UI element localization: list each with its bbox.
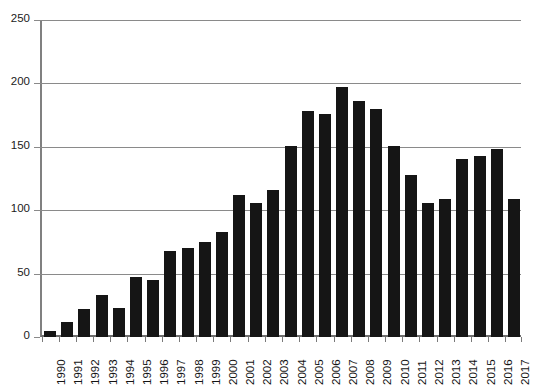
bar [61, 322, 73, 337]
bar [216, 232, 228, 337]
x-axis-tick-label: 2012 [433, 359, 445, 385]
bar [405, 175, 417, 337]
x-axis-tick-label: 1991 [72, 359, 84, 385]
bar [164, 251, 176, 337]
bar [336, 87, 348, 337]
bar [370, 109, 382, 337]
x-axis-tick [521, 337, 522, 342]
bar [113, 308, 125, 337]
y-axis-tick-label: 150 [0, 139, 30, 151]
x-axis-tick-label: 1996 [158, 359, 170, 385]
x-axis-tick-label: 2007 [347, 359, 359, 385]
x-axis-tick-label: 2003 [278, 359, 290, 385]
bar [147, 280, 159, 337]
x-axis-tick-label: 1995 [141, 359, 153, 385]
x-axis-tick-label: 2005 [313, 359, 325, 385]
x-axis-tick-label: 2014 [467, 359, 479, 385]
x-axis-tick-label: 2015 [485, 359, 497, 385]
x-axis-tick-label: 2013 [450, 359, 462, 385]
x-axis-tick-label: 2009 [381, 359, 393, 385]
bar [474, 156, 486, 337]
x-axis-tick-label: 2002 [261, 359, 273, 385]
x-axis-tick-label: 2016 [502, 359, 514, 385]
bar [199, 242, 211, 337]
bar [302, 111, 314, 337]
bar-chart: 050100150200250 199019911992199319941995… [0, 0, 543, 392]
x-axis-tick-label: 2000 [227, 359, 239, 385]
bar [250, 203, 262, 337]
bars-group [40, 20, 521, 337]
bar [439, 199, 451, 337]
y-axis-tick-label: 100 [0, 202, 30, 214]
bar [78, 309, 90, 337]
x-axis-tick-label: 1997 [175, 359, 187, 385]
bar [267, 190, 279, 337]
bar [353, 101, 365, 337]
bar [388, 146, 400, 337]
y-axis-tick [34, 337, 40, 338]
bar [233, 195, 245, 337]
x-axis-tick-labels: 1990199119921993199419951996199719981999… [40, 339, 521, 392]
x-axis-tick-label: 2001 [244, 359, 256, 385]
y-axis-tick-label: 0 [0, 329, 30, 341]
y-axis-tick-label: 250 [0, 12, 30, 24]
x-axis-tick-label: 1993 [107, 359, 119, 385]
x-axis-tick-label: 2004 [296, 359, 308, 385]
bar [456, 159, 468, 337]
bar [422, 203, 434, 337]
y-axis-tick-label: 200 [0, 75, 30, 87]
bar [130, 277, 142, 337]
x-axis-tick-label: 2011 [416, 360, 428, 385]
bar [285, 146, 297, 337]
x-axis-tick-label: 1990 [55, 359, 67, 385]
x-axis-tick-label: 2017 [519, 359, 531, 385]
x-axis-tick-label: 2010 [399, 359, 411, 385]
plot-area [40, 20, 521, 337]
bar [44, 331, 56, 337]
x-axis-tick-label: 1998 [193, 359, 205, 385]
bar [319, 114, 331, 337]
bar [491, 149, 503, 337]
x-axis-tick-label: 1999 [210, 359, 222, 385]
bar [182, 248, 194, 337]
x-axis-tick-label: 1992 [89, 359, 101, 385]
x-axis-tick-label: 2008 [364, 359, 376, 385]
bar [508, 199, 520, 337]
y-axis-tick-label: 50 [0, 266, 30, 278]
bar [96, 295, 108, 337]
x-axis-tick-label: 1994 [124, 359, 136, 385]
x-axis-tick-label: 2006 [330, 359, 342, 385]
